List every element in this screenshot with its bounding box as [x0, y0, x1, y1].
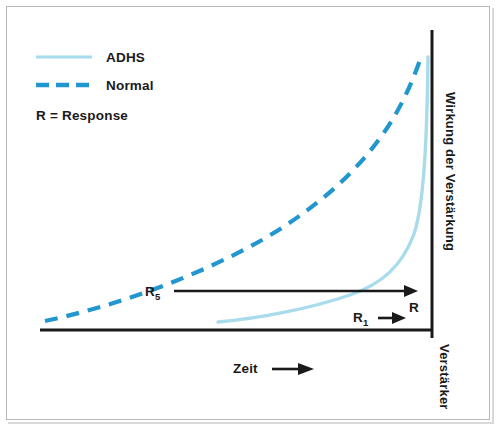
annotation-r: R [409, 300, 419, 315]
legend-label-adhs: ADHS [106, 50, 145, 65]
annotation-r1-sub: 1 [363, 317, 368, 328]
y-axis-sub-label: Verstärker [437, 344, 452, 410]
annotation-r5-base: R [145, 284, 155, 299]
legend-item-adhs: ADHS [36, 46, 236, 68]
annotation-r5-sub: 5 [155, 291, 160, 302]
zeit-arrow [272, 363, 314, 375]
annotation-r1: R1 [353, 310, 368, 328]
x-axis-label: Zeit [233, 361, 258, 376]
y-axis-label: Wirkung der Verstärkung [443, 92, 458, 251]
legend-note-response: R = Response [36, 108, 236, 123]
r1-arrow [378, 312, 406, 324]
annotation-r5: R5 [145, 284, 160, 302]
series-adhs-curve [218, 57, 428, 322]
dashed-line-swatch-icon [36, 78, 92, 92]
annotation-r-base: R [409, 300, 419, 315]
legend-label-normal: Normal [106, 78, 154, 93]
figure-canvas: ADHS Normal R = Response Wirkung der Ver… [0, 0, 502, 433]
solid-line-swatch-icon [36, 50, 92, 64]
legend-item-normal: Normal [36, 74, 236, 96]
annotation-r1-base: R [353, 310, 363, 325]
r5-arrow [174, 285, 418, 297]
chart-legend: ADHS Normal R = Response [36, 46, 236, 123]
